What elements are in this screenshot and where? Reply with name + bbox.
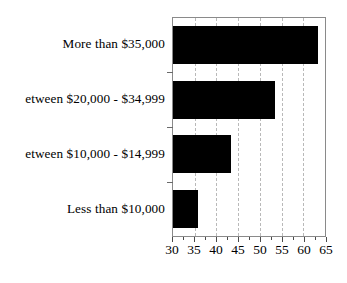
bar: [173, 190, 198, 228]
value-axis-labels: 3035404550556065: [172, 243, 326, 263]
axis-tick-minor: [315, 237, 316, 240]
category-axis-tick: [167, 127, 173, 128]
value-axis-tick-label: 60: [297, 243, 311, 257]
bar-chart: More than $35,000 etween $20,000 - $34,9…: [0, 0, 347, 283]
value-axis-tick-label: 50: [253, 243, 267, 257]
bar-slot: [173, 127, 325, 182]
category-label: More than $35,000: [0, 17, 170, 72]
plot-area: [172, 17, 326, 237]
axis-tick-minor: [249, 237, 250, 240]
category-axis-labels: More than $35,000 etween $20,000 - $34,9…: [0, 17, 170, 237]
category-label: etween $20,000 - $34,999: [0, 72, 170, 127]
axis-tick-minor: [227, 237, 228, 240]
category-axis-tick: [167, 182, 173, 183]
bar: [173, 26, 318, 64]
bar: [173, 135, 231, 173]
axis-tick-minor: [183, 237, 184, 240]
value-axis-tick-label: 45: [231, 243, 245, 257]
bar: [173, 81, 275, 119]
value-axis-tick-label: 35: [187, 243, 201, 257]
bar-slot: [173, 18, 325, 73]
bar-slot: [173, 73, 325, 128]
axis-tick-minor: [271, 237, 272, 240]
axis-tick-minor: [205, 237, 206, 240]
bar-slot: [173, 182, 325, 237]
value-axis-tick-label: 30: [165, 243, 179, 257]
value-axis-tick-label: 65: [319, 243, 333, 257]
category-label: etween $10,000 - $14,999: [0, 127, 170, 182]
category-label: Less than $10,000: [0, 182, 170, 237]
bar-series: [173, 18, 325, 236]
axis-tick-minor: [293, 237, 294, 240]
value-axis-tick-label: 40: [209, 243, 223, 257]
value-axis-tick-label: 55: [275, 243, 289, 257]
category-axis-tick: [167, 72, 173, 73]
